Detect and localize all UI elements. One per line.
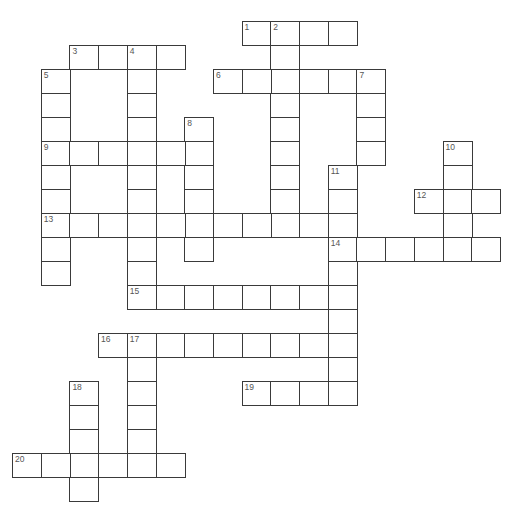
- crossword-cell[interactable]: 1: [242, 21, 272, 46]
- crossword-cell[interactable]: [127, 165, 157, 190]
- crossword-cell[interactable]: [242, 285, 272, 310]
- crossword-cell[interactable]: [299, 333, 329, 358]
- crossword-cell[interactable]: [98, 213, 128, 238]
- crossword-cell[interactable]: 13: [41, 213, 71, 238]
- crossword-cell[interactable]: [127, 93, 157, 118]
- crossword-cell[interactable]: [98, 453, 128, 478]
- crossword-cell[interactable]: [356, 141, 386, 166]
- crossword-cell[interactable]: [184, 213, 214, 238]
- crossword-cell[interactable]: [270, 117, 300, 142]
- crossword-cell[interactable]: [127, 429, 157, 454]
- crossword-cell[interactable]: [443, 189, 473, 214]
- crossword-cell[interactable]: [98, 141, 128, 166]
- crossword-cell[interactable]: [184, 141, 214, 166]
- crossword-cell[interactable]: [471, 189, 501, 214]
- crossword-cell[interactable]: [299, 285, 329, 310]
- crossword-cell[interactable]: [270, 333, 300, 358]
- crossword-cell[interactable]: [328, 285, 358, 310]
- crossword-cell[interactable]: [299, 69, 329, 94]
- crossword-cell[interactable]: 6: [213, 69, 243, 94]
- crossword-cell[interactable]: [127, 453, 157, 478]
- crossword-cell[interactable]: [41, 189, 71, 214]
- crossword-cell[interactable]: [41, 453, 71, 478]
- crossword-cell[interactable]: 8: [184, 117, 214, 142]
- crossword-cell[interactable]: [41, 117, 71, 142]
- crossword-cell[interactable]: [443, 213, 473, 238]
- crossword-cell[interactable]: [41, 165, 71, 190]
- crossword-cell[interactable]: [328, 189, 358, 214]
- crossword-cell[interactable]: 15: [127, 285, 157, 310]
- crossword-cell[interactable]: [242, 69, 272, 94]
- crossword-cell[interactable]: 19: [242, 381, 272, 406]
- crossword-cell[interactable]: 11: [328, 165, 358, 190]
- crossword-cell[interactable]: [471, 237, 501, 262]
- crossword-cell[interactable]: [127, 261, 157, 286]
- crossword-cell[interactable]: [127, 117, 157, 142]
- crossword-cell[interactable]: 14: [328, 237, 358, 262]
- crossword-cell[interactable]: [328, 261, 358, 286]
- crossword-cell[interactable]: [299, 21, 329, 46]
- crossword-cell[interactable]: [184, 165, 214, 190]
- crossword-cell[interactable]: [127, 405, 157, 430]
- crossword-cell[interactable]: [270, 165, 300, 190]
- crossword-cell[interactable]: [385, 237, 415, 262]
- crossword-cell[interactable]: [270, 189, 300, 214]
- crossword-cell[interactable]: 2: [270, 21, 300, 46]
- crossword-cell[interactable]: [414, 237, 444, 262]
- crossword-cell[interactable]: [328, 309, 358, 334]
- crossword-cell[interactable]: [156, 45, 186, 70]
- crossword-cell[interactable]: [242, 333, 272, 358]
- crossword-cell[interactable]: 18: [69, 381, 99, 406]
- crossword-cell[interactable]: [328, 381, 358, 406]
- crossword-cell[interactable]: [270, 93, 300, 118]
- crossword-cell[interactable]: [184, 285, 214, 310]
- crossword-cell[interactable]: 5: [41, 69, 71, 94]
- crossword-cell[interactable]: [156, 141, 186, 166]
- crossword-cell[interactable]: [41, 93, 71, 118]
- crossword-cell[interactable]: [41, 261, 71, 286]
- crossword-cell[interactable]: 16: [98, 333, 128, 358]
- crossword-cell[interactable]: [328, 333, 358, 358]
- crossword-cell[interactable]: [127, 213, 157, 238]
- crossword-cell[interactable]: 3: [69, 45, 99, 70]
- crossword-cell[interactable]: [184, 189, 214, 214]
- crossword-cell[interactable]: [156, 213, 186, 238]
- crossword-cell[interactable]: [184, 237, 214, 262]
- crossword-cell[interactable]: [356, 93, 386, 118]
- crossword-cell[interactable]: [69, 429, 99, 454]
- crossword-cell[interactable]: [98, 45, 128, 70]
- crossword-cell[interactable]: [127, 189, 157, 214]
- crossword-cell[interactable]: [69, 141, 99, 166]
- crossword-cell[interactable]: 4: [127, 45, 157, 70]
- crossword-cell[interactable]: [69, 405, 99, 430]
- crossword-cell[interactable]: [270, 45, 300, 70]
- crossword-cell[interactable]: 17: [127, 333, 157, 358]
- crossword-cell[interactable]: [328, 213, 358, 238]
- crossword-cell[interactable]: [328, 357, 358, 382]
- crossword-cell[interactable]: [299, 381, 329, 406]
- crossword-cell[interactable]: [443, 165, 473, 190]
- crossword-cell[interactable]: [328, 21, 358, 46]
- crossword-cell[interactable]: [328, 69, 358, 94]
- crossword-cell[interactable]: [184, 333, 214, 358]
- crossword-cell[interactable]: [127, 357, 157, 382]
- crossword-cell[interactable]: [242, 213, 272, 238]
- crossword-cell[interactable]: [213, 285, 243, 310]
- crossword-cell[interactable]: [270, 213, 300, 238]
- crossword-cell[interactable]: [270, 381, 300, 406]
- crossword-cell[interactable]: 9: [41, 141, 71, 166]
- crossword-cell[interactable]: [356, 237, 386, 262]
- crossword-cell[interactable]: [156, 333, 186, 358]
- crossword-cell[interactable]: [127, 141, 157, 166]
- crossword-cell[interactable]: [299, 213, 329, 238]
- crossword-cell[interactable]: [270, 285, 300, 310]
- crossword-cell[interactable]: [69, 477, 99, 502]
- crossword-cell[interactable]: 12: [414, 189, 444, 214]
- crossword-cell[interactable]: [443, 237, 473, 262]
- crossword-cell[interactable]: [270, 141, 300, 166]
- crossword-cell[interactable]: [127, 381, 157, 406]
- crossword-cell[interactable]: [156, 285, 186, 310]
- crossword-cell[interactable]: [213, 213, 243, 238]
- crossword-cell[interactable]: 10: [443, 141, 473, 166]
- crossword-cell[interactable]: [69, 213, 99, 238]
